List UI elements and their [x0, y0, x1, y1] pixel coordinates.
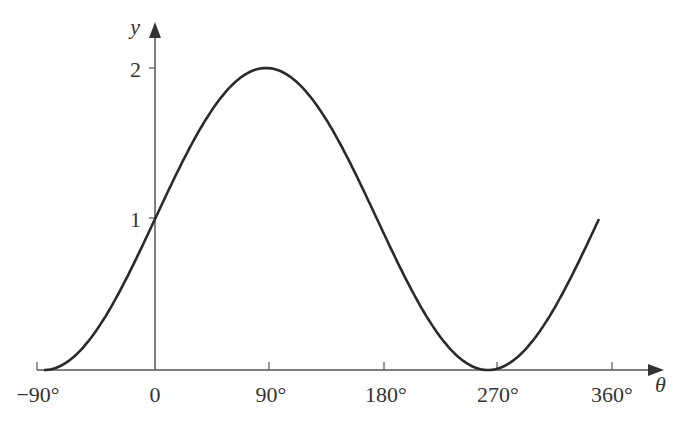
- x-tick-label: 0: [150, 382, 161, 407]
- y-tick-label: 1: [130, 207, 141, 232]
- chart: −90° 0 90° 180° 270° 360° 1 2 θ y: [0, 0, 677, 428]
- x-tick-label: 270°: [477, 382, 519, 407]
- y-axis-label: y: [128, 14, 140, 39]
- y-tick-label: 2: [130, 57, 141, 82]
- x-ticks: [37, 362, 612, 370]
- x-tick-label: 360°: [591, 382, 633, 407]
- y-axis-arrow-icon: [149, 22, 161, 38]
- x-tick-label: 180°: [365, 382, 407, 407]
- x-tick-label: 90°: [256, 382, 287, 407]
- sine-curve: [44, 68, 599, 370]
- x-axis-label: θ: [655, 372, 666, 397]
- y-ticks: [149, 68, 155, 218]
- x-tick-label: −90°: [16, 382, 59, 407]
